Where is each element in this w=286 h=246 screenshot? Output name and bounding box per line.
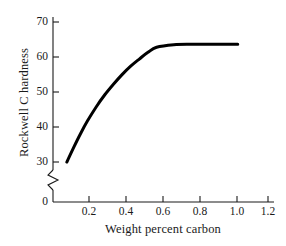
x-tick-label-0-2: 0.2 [74, 206, 104, 218]
x-tick-marks [89, 196, 268, 202]
x-tick-label-1-2: 1.2 [253, 206, 283, 218]
x-tick-label-0-4: 0.4 [111, 206, 141, 218]
x-tick-label-1-0: 1.0 [222, 206, 252, 218]
x-tick-label-0-6: 0.6 [148, 206, 178, 218]
data-curve-rockwell-hardness [67, 44, 238, 162]
y-axis-origin-label: 0 [16, 196, 48, 208]
y-axis-title: Rockwell C hardness [17, 23, 32, 183]
y-tick-marks [53, 22, 59, 162]
y-axis-break-zigzag [48, 170, 58, 190]
x-axis-title: Weight percent carbon [53, 222, 273, 237]
chart-figure: 70 60 50 40 30 0 0.2 0.4 0.6 0.8 1.0 1.2… [0, 0, 286, 246]
x-tick-label-0-8: 0.8 [185, 206, 215, 218]
